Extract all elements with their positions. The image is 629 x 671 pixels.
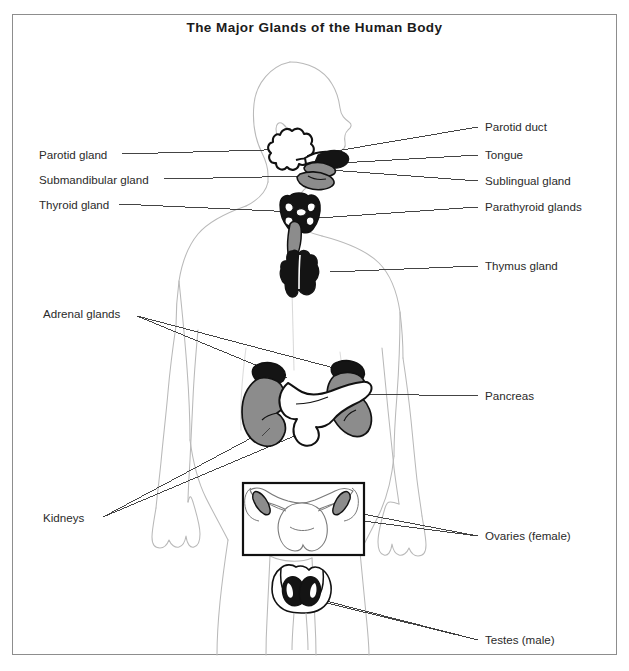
label-kidneys: Kidneys — [43, 512, 84, 524]
leader-submandibular-gland — [164, 176, 311, 179]
parathyroid-gland-2 — [307, 203, 315, 212]
shoulder-left — [176, 206, 246, 326]
label-ovaries-female: Ovaries (female) — [485, 530, 571, 542]
label-parotid-gland: Parotid gland — [39, 149, 107, 161]
hand-right — [378, 502, 426, 556]
penis-outline — [292, 613, 294, 650]
label-adrenal-glands: Adrenal glands — [43, 308, 120, 320]
testis-right-shape — [299, 577, 320, 606]
arm-left-outer — [156, 326, 176, 508]
leader-testis-right — [322, 600, 478, 640]
parathyroid-gland-1 — [285, 203, 293, 212]
leg-left-outer — [217, 540, 228, 655]
leader-parathyroid-glands — [318, 207, 478, 218]
label-sublingual-gland: Sublingual gland — [485, 175, 571, 187]
neck-left — [246, 182, 268, 206]
leader-sublingual-gland — [330, 170, 478, 181]
torso-left — [179, 281, 190, 440]
anatomy-figure: The Major Glands of the Human Body — [0, 0, 629, 671]
parathyroid-gland-4 — [306, 217, 314, 225]
ovaries-inset-group — [243, 483, 364, 555]
penis-outline-2 — [306, 613, 308, 650]
leg-left-inner — [266, 556, 270, 655]
label-pancreas: Pancreas — [485, 390, 534, 402]
leader-pancreas — [359, 394, 478, 396]
label-tongue: Tongue — [485, 149, 523, 161]
arm-right-outer — [403, 358, 422, 516]
hip-left — [190, 440, 228, 540]
torso-right — [394, 312, 400, 456]
label-parotid-duct: Parotid duct — [485, 121, 547, 133]
glands-group — [242, 129, 372, 650]
leader-thyroid-gland — [119, 204, 296, 212]
leader-thymus-gland — [330, 266, 478, 272]
thyroid-isthmus — [296, 209, 306, 216]
testes-group — [272, 565, 331, 650]
label-submandibular-gland: Submandibular gland — [39, 174, 149, 186]
crotch — [270, 556, 312, 561]
leader-adrenal-right — [137, 316, 357, 374]
anatomy-illustration — [0, 0, 629, 671]
hand-left — [152, 497, 200, 548]
kidney-left-shape — [242, 378, 286, 447]
leg-right-outer — [360, 552, 369, 655]
leader-tongue — [340, 155, 478, 163]
label-testes-male: Testes (male) — [485, 634, 555, 646]
label-parathyroid-glands: Parathyroid glands — [485, 201, 582, 213]
label-thymus-gland: Thymus gland — [485, 260, 558, 272]
hip-right — [360, 456, 394, 552]
shoulder-right — [322, 236, 403, 358]
label-thyroid-gland: Thyroid gland — [39, 199, 109, 211]
